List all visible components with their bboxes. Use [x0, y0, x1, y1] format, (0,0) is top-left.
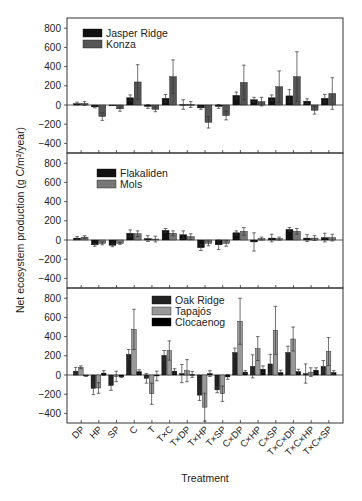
y-tick-label: 800	[44, 23, 61, 34]
y-tick-label: 200	[44, 350, 61, 361]
y-tick-label: 400	[44, 331, 61, 342]
y-tick-label: 0	[55, 370, 61, 381]
y-tick-label: −400	[38, 273, 61, 284]
y-tick-label: 0	[55, 235, 61, 246]
legend-label: Mols	[120, 178, 142, 190]
y-tick-label: −400	[38, 138, 61, 149]
panel-2: 8006004002000−200−400FlakalidenMols	[38, 153, 343, 288]
legend-swatch	[152, 307, 171, 315]
x-tick-labels: DPHPSPCTT×CT×DPT×HPT×SPC×DPC×HPC×SPT×C×D…	[69, 424, 334, 458]
y-tick-label: 200	[44, 215, 61, 226]
x-tick-label: DP	[69, 424, 86, 441]
y-tick-label: −200	[38, 389, 61, 400]
legend-label: Konza	[106, 38, 136, 50]
legend-panel-3: Oak RidgeTapajósClocaenog	[152, 294, 225, 328]
legend-swatch	[152, 318, 171, 326]
legend-swatch	[97, 169, 116, 177]
panel-3: 8006004002000−200−400Oak RidgeTapajósClo…	[38, 288, 343, 423]
y-tick-label: −400	[38, 408, 61, 419]
legend-panel-2: FlakalidenMols	[97, 167, 168, 190]
x-tick-label: HP	[87, 424, 104, 441]
legend-swatch	[152, 296, 171, 304]
x-axis-label: Treatment	[181, 472, 229, 484]
legend-swatch	[83, 29, 102, 37]
chart-panels: 8006004002000−200−400Jasper RidgeKonza80…	[38, 18, 343, 458]
y-tick-label: −200	[38, 119, 61, 130]
y-tick-label: 600	[44, 312, 61, 323]
legend-panel-1: Jasper RidgeKonza	[83, 27, 168, 50]
x-tick-label: SP	[105, 424, 122, 441]
y-axis-label: Net ecosystem production (g C/m²/year)	[14, 127, 26, 313]
legend-swatch	[83, 40, 102, 48]
y-tick-label: 400	[44, 61, 61, 72]
y-tick-label: 200	[44, 80, 61, 91]
ecosystem-production-chart: 8006004002000−200−400Jasper RidgeKonza80…	[0, 0, 362, 501]
x-tick-label: C	[127, 424, 140, 437]
y-tick-label: 600	[44, 177, 61, 188]
legend-label: Clocaenog	[175, 316, 225, 328]
y-tick-label: 600	[44, 42, 61, 53]
y-tick-label: 800	[44, 293, 61, 304]
legend-swatch	[97, 180, 116, 188]
y-tick-label: 800	[44, 158, 61, 169]
panel-1: 8006004002000−200−400Jasper RidgeKonza	[38, 18, 343, 153]
y-tick-label: 0	[55, 100, 61, 111]
bar	[109, 105, 116, 106]
y-tick-label: 400	[44, 196, 61, 207]
x-tick-label: T	[145, 424, 157, 436]
y-tick-label: −200	[38, 254, 61, 265]
